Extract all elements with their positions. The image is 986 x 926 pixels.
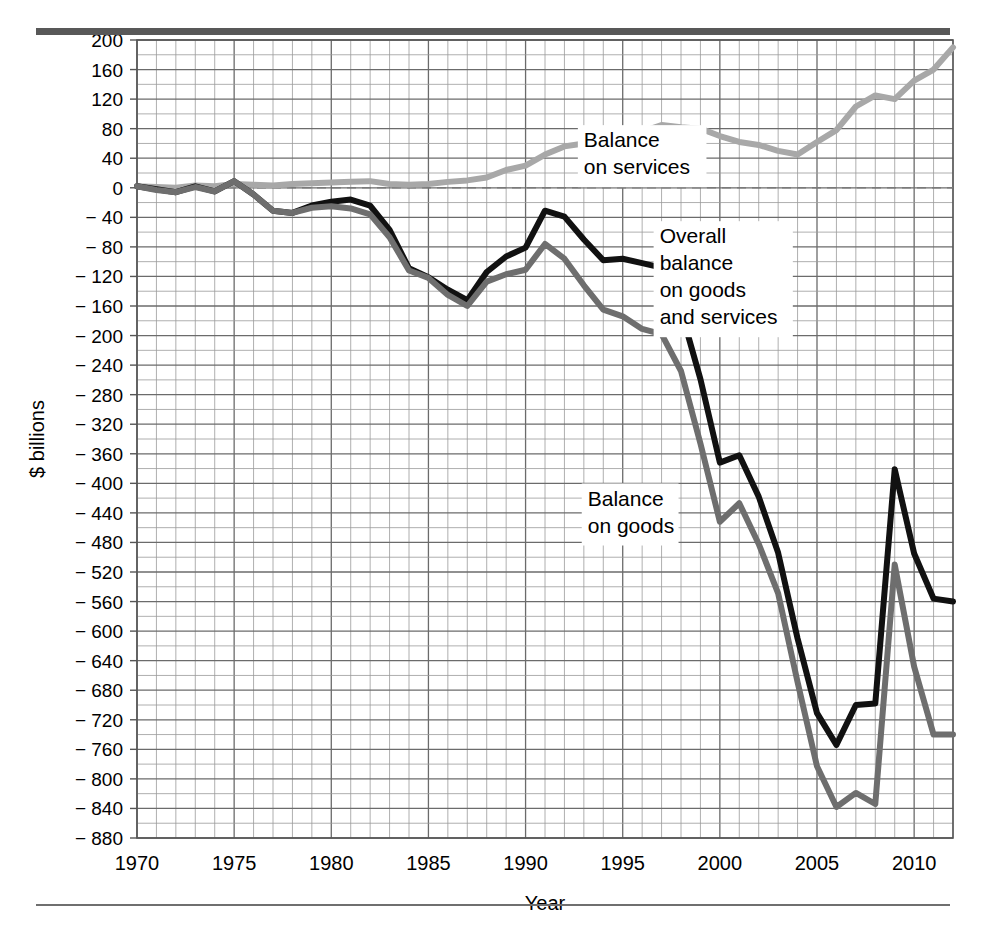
ytick-label: − 600 [75, 621, 123, 642]
overall-label: on goods [660, 278, 746, 301]
overall-label: balance [660, 251, 734, 274]
ytick-label: − 560 [75, 592, 123, 613]
ytick-label: 80 [102, 119, 123, 140]
x-axis-title: Year [525, 892, 566, 914]
ytick-label: − 200 [75, 326, 123, 347]
ytick-label: − 760 [75, 739, 123, 760]
ytick-label: − 240 [75, 355, 123, 376]
ytick-label: − 880 [75, 828, 123, 849]
ytick-label: 160 [91, 60, 123, 81]
ytick-label: − 360 [75, 444, 123, 465]
services-label: Balance [584, 128, 660, 151]
ytick-label: − 800 [75, 769, 123, 790]
line-chart: 20016012080400− 40− 80− 120− 160− 200− 2… [0, 0, 986, 926]
ytick-label: − 720 [75, 710, 123, 731]
ytick-label: 40 [102, 148, 123, 169]
xtick-label: 1980 [309, 852, 354, 874]
ytick-label: − 440 [75, 503, 123, 524]
ytick-label: − 840 [75, 798, 123, 819]
overall-label: Overall [660, 224, 727, 247]
xtick-label: 1990 [503, 852, 548, 874]
bottom-rule [36, 904, 950, 906]
ytick-label: − 520 [75, 562, 123, 583]
xtick-label: 1995 [600, 852, 645, 874]
ytick-label: 120 [91, 89, 123, 110]
xtick-label: 1985 [406, 852, 451, 874]
ytick-label: − 80 [85, 237, 123, 258]
ytick-label: − 640 [75, 651, 123, 672]
goods-label: Balance [588, 487, 664, 510]
services-label: on services [584, 155, 690, 178]
figure-container: 20016012080400− 40− 80− 120− 160− 200− 2… [0, 0, 986, 926]
ytick-label: − 40 [85, 207, 123, 228]
ytick-label: − 480 [75, 532, 123, 553]
xtick-label: 2005 [795, 852, 840, 874]
ytick-label: − 400 [75, 473, 123, 494]
ytick-label: − 280 [75, 385, 123, 406]
ytick-label: 0 [112, 178, 123, 199]
xtick-label: 1970 [115, 852, 160, 874]
xtick-label: 1975 [212, 852, 257, 874]
xtick-label: 2010 [892, 852, 937, 874]
goods-label: on goods [588, 514, 674, 537]
ytick-label: − 680 [75, 680, 123, 701]
overall-label: and services [660, 305, 778, 328]
y-axis-title: $ billions [26, 400, 48, 478]
ytick-label: − 120 [75, 266, 123, 287]
xtick-label: 2000 [698, 852, 743, 874]
top-rule [36, 28, 950, 35]
ytick-label: − 320 [75, 414, 123, 435]
ytick-label: − 160 [75, 296, 123, 317]
